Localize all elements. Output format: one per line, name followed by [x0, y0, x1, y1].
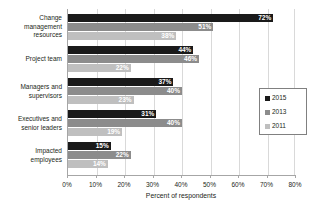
bar-value-label: 15% [96, 142, 109, 150]
category-label-line: supervisors [0, 92, 62, 101]
bar-2015: 31% [68, 110, 156, 118]
x-tick-label: 30% [138, 180, 168, 189]
bar-value-label: 37% [158, 78, 171, 86]
bar-rect [68, 119, 182, 127]
category-label-project-team: Project team [0, 55, 62, 64]
category-label-line: Executives and [0, 115, 62, 124]
bar-2013: 22% [68, 151, 131, 159]
legend-item-2015[interactable]: 2015 [265, 93, 286, 103]
x-tick [210, 175, 211, 178]
bar-2011: 23% [68, 96, 134, 104]
category-label-line: resources [0, 31, 62, 40]
bar-value-label: 40% [167, 119, 180, 127]
x-tick [67, 175, 68, 178]
bar-rect [68, 23, 213, 31]
category-label-line: Project team [0, 55, 62, 64]
bar-2013: 51% [68, 23, 213, 31]
legend-swatch-icon [265, 96, 270, 101]
bar-group: 44% 46% 22% [68, 46, 294, 73]
category-label-line: senior leaders [0, 124, 62, 133]
bar-group: 15% 22% 14% [68, 142, 294, 169]
category-label-change-management-resources: Change management resources [0, 14, 62, 40]
x-tick-label: 20% [109, 180, 139, 189]
legend-swatch-icon [265, 110, 270, 115]
bar-rect [68, 55, 199, 63]
bar-value-label: 22% [116, 64, 129, 72]
bar-rect [68, 46, 193, 54]
bar-2011: 14% [68, 160, 108, 168]
bar-value-label: 22% [116, 151, 129, 159]
category-label-executives-and-senior-leaders: Executives and senior leaders [0, 115, 62, 132]
bar-2015: 15% [68, 142, 111, 150]
bar-2015: 72% [68, 14, 273, 22]
x-tick-label: 50% [195, 180, 225, 189]
bar-chart: 72% 51% 38% 44% 46% 22% [0, 0, 319, 207]
x-tick-label: 60% [223, 180, 253, 189]
legend-label: 2015 [272, 94, 286, 102]
x-tick [295, 175, 296, 178]
category-label-impacted-employees: Impacted employees [0, 147, 62, 164]
bar-value-label: 31% [141, 110, 154, 118]
category-label-line: Managers and [0, 83, 62, 92]
bar-value-label: 40% [167, 87, 180, 95]
bar-2011: 22% [68, 64, 131, 72]
category-label-managers-and-supervisors: Managers and supervisors [0, 83, 62, 100]
bar-rect [68, 87, 182, 95]
x-tick [96, 175, 97, 178]
x-tick [124, 175, 125, 178]
legend: 2015 2013 2011 [259, 88, 307, 135]
x-tick-label: 40% [166, 180, 196, 189]
x-axis-title: Percent of respondents [67, 192, 295, 199]
bar-group: 72% 51% 38% [68, 14, 294, 41]
bar-value-label: 38% [161, 32, 174, 40]
bar-2015: 44% [68, 46, 193, 54]
x-tick-label: 70% [252, 180, 282, 189]
x-tick [238, 175, 239, 178]
bar-2011: 38% [68, 32, 176, 40]
x-tick [267, 175, 268, 178]
bar-2013: 40% [68, 87, 182, 95]
bar-2013: 40% [68, 119, 182, 127]
x-tick-label: 10% [81, 180, 111, 189]
legend-label: 2011 [272, 122, 286, 130]
bar-value-label: 72% [258, 14, 271, 22]
bar-value-label: 51% [198, 23, 211, 31]
bar-value-label: 44% [178, 46, 191, 54]
bar-value-label: 23% [119, 96, 132, 104]
category-label-line: Change [0, 14, 62, 23]
legend-swatch-icon [265, 124, 270, 129]
category-label-line: employees [0, 156, 62, 165]
legend-item-2013[interactable]: 2013 [265, 107, 286, 117]
bar-rect [68, 32, 176, 40]
bar-2011: 19% [68, 128, 122, 136]
x-tick-label: 0% [52, 180, 82, 189]
x-tick [181, 175, 182, 178]
bar-rect [68, 14, 273, 22]
x-tick [153, 175, 154, 178]
category-label-line: Impacted [0, 147, 62, 156]
legend-label: 2013 [272, 108, 286, 116]
x-tick-label: 80% [280, 180, 310, 189]
bar-value-label: 14% [93, 160, 106, 168]
bar-2015: 37% [68, 78, 173, 86]
legend-item-2011[interactable]: 2011 [265, 121, 286, 131]
bar-value-label: 46% [184, 55, 197, 63]
bar-2013: 46% [68, 55, 199, 63]
bar-value-label: 19% [107, 128, 120, 136]
category-label-line: management [0, 23, 62, 32]
